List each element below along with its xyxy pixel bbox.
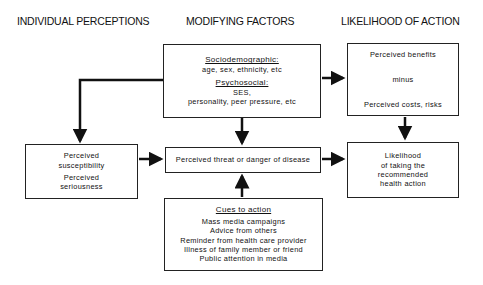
benefits-costs-box: Perceived benefits minus Perceived costs… <box>347 43 459 116</box>
perceived-susceptibility-line-2: susceptibility <box>58 161 104 170</box>
perceived-costs-risks: Perceived costs, risks <box>364 100 442 109</box>
individual-perceptions-box: Perceived susceptibility Perceived serio… <box>25 144 138 199</box>
minus-label: minus <box>392 75 413 84</box>
psychosocial-line-2: personality, peer pressure, etc <box>188 97 296 106</box>
cue-item: Advice from others <box>210 226 277 235</box>
likelihood-line-2: of taking the <box>381 161 425 170</box>
perceived-susceptibility-line-1: Perceived <box>64 151 100 160</box>
likelihood-line-1: Likelihood <box>385 151 421 160</box>
sociodemographic-title: Sociodemographic: <box>205 55 279 64</box>
perceived-benefits: Perceived benefits <box>370 50 436 59</box>
cue-item: Illness of family member or friend <box>184 245 303 254</box>
perceived-seriousness-line-1: Perceived <box>64 173 100 182</box>
sociodemographic-items: age, sex, ethnicity, etc <box>202 65 282 74</box>
modifying-factors-box: Sociodemographic: age, sex, ethnicity, e… <box>163 44 321 118</box>
perceived-seriousness-line-2: seriousness <box>60 182 103 191</box>
cues-title: Cues to action <box>216 205 271 214</box>
perceived-threat-label: Perceived threat or danger of disease <box>176 155 310 164</box>
cue-item: Reminder from health care provider <box>180 236 306 245</box>
cue-item: Mass media campaigns <box>202 217 286 226</box>
likelihood-line-3: recommended <box>378 170 429 179</box>
perceived-threat-box: Perceived threat or danger of disease <box>165 147 321 173</box>
cue-item: Public attention in media <box>199 254 287 263</box>
likelihood-line-4: health action <box>380 179 426 188</box>
cues-to-action-box: Cues to action Mass media campaigns Advi… <box>164 198 323 271</box>
psychosocial-title: Psychosocial: <box>216 78 269 87</box>
psychosocial-line-1: SES, <box>233 88 251 97</box>
likelihood-action-box: Likelihood of taking the recommended hea… <box>347 142 459 198</box>
